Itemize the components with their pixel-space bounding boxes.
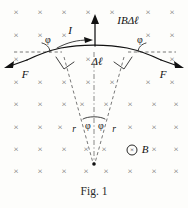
physics-figure: × × × × × × × × × × × × × × × × × × × × … [0,0,188,208]
field-cross: × [169,7,174,17]
field-cross: × [37,30,42,40]
field-cross: × [151,144,156,154]
field-cross: × [37,7,42,17]
resultant-label: IBΔℓ [116,14,139,26]
field-cross: × [151,166,156,176]
field-cross: × [13,122,18,132]
arc-center-point [92,162,96,166]
current-arrow-head [84,37,93,43]
radius-line-right [95,57,124,163]
resultant-force-vector[interactable]: IBΔℓ [91,14,139,46]
radius-lines [64,52,124,163]
field-cross: × [13,166,18,176]
angle-label-apex-left: φ [85,120,91,131]
field-cross: × [37,144,42,154]
field-cross: × [37,99,42,109]
field-cross: × [13,54,18,64]
current-arrow-shaft [57,40,88,48]
field-cross: × [101,144,106,154]
right-angle-marker-left [56,57,74,69]
field-direction-legend: × B [127,143,149,155]
field-cross: × [127,166,132,176]
figure-caption: Fig. 1 [81,185,108,198]
angle-label-upper-left: φ [45,34,51,45]
field-cross: × [103,99,108,109]
field-into-page-cross: × [130,146,134,154]
field-cross: × [173,144,178,154]
angle-label-upper-right: φ [137,34,143,45]
force-label-left: F [21,68,29,80]
field-cross: × [169,54,174,64]
field-cross: × [85,54,90,64]
field-cross: × [61,30,66,40]
field-cross: × [57,122,62,132]
field-cross: × [169,77,174,87]
right-angle-marker-right [114,57,132,69]
field-cross: × [127,122,132,132]
radius-line-left [64,57,93,163]
field-cross: × [13,7,18,17]
field-cross: × [85,77,90,87]
field-cross: × [61,7,66,17]
field-label: B [142,143,149,155]
force-label-right: F [159,68,167,80]
figure-canvas: × × × × × × × × × × × × × × × × × × × × … [0,0,188,208]
field-cross: × [37,166,42,176]
field-cross: × [173,166,178,176]
radius-label-left: r [72,124,76,134]
field-cross: × [173,122,178,132]
field-cross: × [61,166,66,176]
field-cross: × [83,144,88,154]
force-arrow-right-head [174,61,184,68]
radius-label-right: r [112,124,116,134]
field-cross: × [151,99,156,109]
field-cross: × [61,99,66,109]
field-cross: × [61,144,66,154]
field-cross: × [173,99,178,109]
field-cross: × [13,30,18,40]
field-cross: × [13,77,18,87]
field-cross: × [13,144,18,154]
field-cross: × [85,7,90,17]
field-cross: × [109,77,114,87]
angle-label-apex-right: φ [98,120,104,131]
field-cross: × [109,7,114,17]
field-cross: × [151,122,156,132]
field-cross: × [103,166,108,176]
field-cross: × [13,99,18,109]
resultant-arrow-head [91,14,99,24]
field-cross: × [37,77,42,87]
magnetic-field-grid: × × × × × × × × × × × × × × × × × × × × … [13,7,178,176]
field-cross: × [145,30,150,40]
segment-length-label: Δℓ [90,55,102,67]
current-label: I [67,24,73,36]
field-cross: × [61,77,66,87]
field-cross: × [145,7,150,17]
field-cross: × [37,122,42,132]
delta-l-label: Δℓ [90,55,102,67]
field-cross: × [145,77,150,87]
field-cross: × [83,166,88,176]
field-cross: × [79,99,84,109]
field-cross: × [127,99,132,109]
field-cross: × [169,30,174,40]
